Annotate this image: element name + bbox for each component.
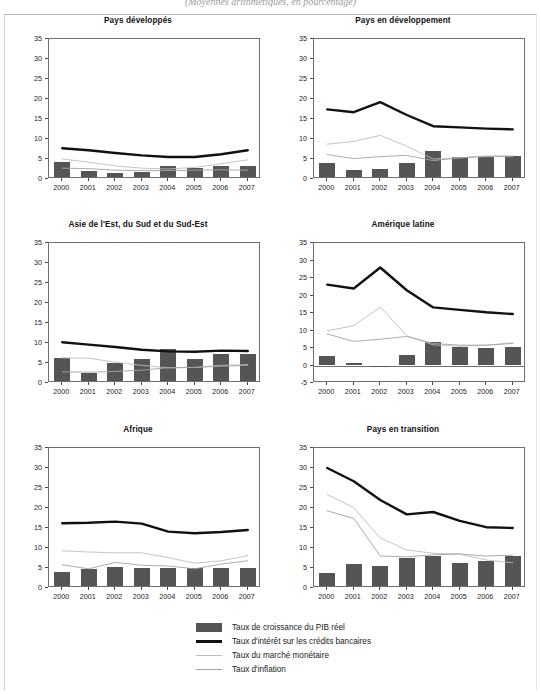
y-axis-tick-label: 30 bbox=[16, 463, 42, 472]
x-axis-tick-label: 2001 bbox=[340, 592, 367, 601]
line-series-layer bbox=[49, 243, 260, 382]
x-axis-tick-label: 2002 bbox=[366, 183, 393, 192]
y-axis-tick-label: 35 bbox=[281, 34, 307, 43]
x-axis-tick-mark bbox=[167, 382, 168, 385]
line-series-layer bbox=[314, 39, 525, 178]
y-axis-tick-label: 0 bbox=[281, 174, 307, 183]
x-axis-tick-mark bbox=[353, 178, 354, 181]
x-axis-tick-label: 2000 bbox=[313, 183, 340, 192]
x-axis-tick-mark bbox=[512, 587, 513, 590]
legend-item: Taux du marché monétaire bbox=[0, 648, 541, 662]
y-axis-tick-mark bbox=[310, 38, 313, 39]
x-axis-tick-label: 2002 bbox=[101, 183, 128, 192]
x-axis-tick-mark bbox=[61, 587, 62, 590]
x-axis-tick-mark bbox=[432, 382, 433, 385]
y-axis-tick-mark bbox=[45, 158, 48, 159]
y-axis-tick-label: 20 bbox=[281, 290, 307, 299]
x-axis-tick-label: 2004 bbox=[419, 387, 446, 396]
x-axis-tick-label: 2007 bbox=[499, 183, 526, 192]
y-axis-tick-label: 15 bbox=[16, 523, 42, 532]
chart-panel: Amérique latine-505101520253035200020012… bbox=[273, 220, 533, 416]
y-axis-tick-mark bbox=[45, 587, 48, 588]
x-axis-tick-mark bbox=[512, 178, 513, 181]
y-axis-tick-mark bbox=[45, 118, 48, 119]
y-axis-tick-mark bbox=[310, 365, 313, 366]
x-axis-tick-label: 2003 bbox=[128, 387, 155, 396]
y-axis-tick-label: 5 bbox=[281, 343, 307, 352]
x-axis-tick-label: 2000 bbox=[313, 387, 340, 396]
line-series bbox=[327, 135, 513, 159]
x-axis-tick-mark bbox=[88, 587, 89, 590]
x-axis-tick-label: 2001 bbox=[75, 592, 102, 601]
y-axis-tick-mark bbox=[310, 447, 313, 448]
line-series bbox=[327, 468, 513, 528]
x-axis-tick-label: 2000 bbox=[48, 183, 75, 192]
y-axis-tick-label: 15 bbox=[281, 308, 307, 317]
y-axis-tick-label: 10 bbox=[16, 338, 42, 347]
x-axis-tick-label: 2003 bbox=[393, 387, 420, 396]
plot-area bbox=[313, 447, 525, 587]
y-axis-tick-mark bbox=[45, 302, 48, 303]
x-axis-tick-label: 2007 bbox=[234, 387, 261, 396]
y-axis-tick-label: 10 bbox=[281, 134, 307, 143]
line-series-layer bbox=[314, 243, 525, 382]
y-axis-tick-mark bbox=[45, 467, 48, 468]
y-axis-tick-mark bbox=[45, 78, 48, 79]
y-axis-tick-mark bbox=[310, 178, 313, 179]
x-axis-tick-mark bbox=[114, 382, 115, 385]
y-axis-tick-mark bbox=[310, 487, 313, 488]
y-axis-tick-mark bbox=[45, 178, 48, 179]
x-axis-tick-mark bbox=[141, 178, 142, 181]
x-axis-tick-mark bbox=[61, 382, 62, 385]
chart-title: Pays développés bbox=[8, 16, 268, 25]
y-axis-tick-mark bbox=[310, 118, 313, 119]
x-axis-tick-label: 2001 bbox=[340, 183, 367, 192]
line-series bbox=[62, 148, 248, 157]
y-axis-tick-mark bbox=[310, 467, 313, 468]
x-axis-tick-mark bbox=[88, 178, 89, 181]
y-axis-tick-label: 25 bbox=[16, 483, 42, 492]
x-axis-tick-mark bbox=[167, 178, 168, 181]
y-axis-tick-label: 25 bbox=[281, 74, 307, 83]
y-axis-tick-label: 20 bbox=[281, 503, 307, 512]
x-axis-tick-mark bbox=[220, 382, 221, 385]
legend-item: Taux d'inflation bbox=[0, 662, 541, 676]
x-axis-tick-label: 2000 bbox=[48, 387, 75, 396]
y-axis-tick-mark bbox=[45, 362, 48, 363]
y-axis-tick-label: -5 bbox=[281, 378, 307, 387]
x-axis-tick-mark bbox=[326, 178, 327, 181]
y-axis-tick-label: 0 bbox=[281, 360, 307, 369]
x-axis-tick-label: 2001 bbox=[75, 387, 102, 396]
y-axis-tick-mark bbox=[45, 507, 48, 508]
y-axis-tick-label: 30 bbox=[281, 463, 307, 472]
x-axis-tick-mark bbox=[194, 382, 195, 385]
line-series bbox=[62, 551, 248, 563]
line-series bbox=[327, 268, 513, 315]
bar-swatch bbox=[196, 622, 222, 633]
x-axis-tick-mark bbox=[406, 382, 407, 385]
x-axis-tick-label: 2003 bbox=[393, 183, 420, 192]
chart-panel: Afrique051015202530352000200120022003200… bbox=[8, 425, 268, 621]
x-axis-tick-label: 2005 bbox=[181, 387, 208, 396]
y-axis-tick-label: 35 bbox=[281, 443, 307, 452]
x-axis-tick-label: 2007 bbox=[499, 592, 526, 601]
x-axis-tick-mark bbox=[379, 587, 380, 590]
x-axis-tick-label: 2002 bbox=[366, 592, 393, 601]
x-axis-tick-mark bbox=[194, 587, 195, 590]
chart-panel: Pays en transition0510152025303520002001… bbox=[273, 425, 533, 621]
x-axis-tick-mark bbox=[459, 178, 460, 181]
legend-item-label: Taux d'intérêt sur les crédits bancaires bbox=[232, 637, 371, 646]
chart-title: Pays en développement bbox=[273, 16, 533, 25]
x-axis-tick-mark bbox=[61, 178, 62, 181]
thin-light-line-swatch bbox=[196, 650, 222, 661]
x-axis-tick-label: 2000 bbox=[313, 592, 340, 601]
y-axis-tick-label: 20 bbox=[16, 503, 42, 512]
plot-area bbox=[313, 38, 525, 178]
y-axis-tick-mark bbox=[45, 547, 48, 548]
y-axis-tick-mark bbox=[310, 277, 313, 278]
x-axis-tick-label: 2002 bbox=[101, 592, 128, 601]
x-axis-tick-mark bbox=[247, 587, 248, 590]
x-axis-tick-mark bbox=[459, 587, 460, 590]
y-axis-tick-mark bbox=[310, 382, 313, 383]
x-axis-tick-label: 2005 bbox=[446, 183, 473, 192]
